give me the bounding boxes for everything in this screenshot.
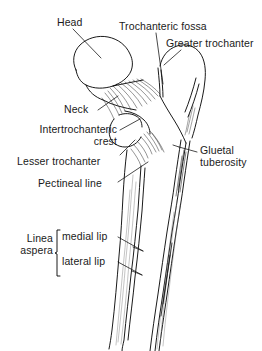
leader-tick-marks [132, 145, 179, 275]
femur-head-outline [74, 36, 133, 88]
label-neck: Neck [64, 104, 88, 116]
leader-lesser-trochanter [120, 140, 135, 155]
label-intertrochanteric-crest: Intertrochanteric crest [13, 124, 117, 148]
linea-aspera-medial-lip-inner [128, 168, 145, 340]
label-gluteal-tuberosity-line2: tuberosity [200, 156, 247, 168]
label-intertrochanteric-crest-line1: Intertrochanteric [39, 123, 117, 135]
head-neck-lower-contour [86, 85, 103, 100]
label-pectineal-line: Pectineal line [38, 178, 102, 190]
label-lateral-lip: lateral lip [62, 256, 105, 268]
leader-gluteal-tuberosity [179, 147, 197, 152]
leader-pectineal-line [118, 162, 148, 182]
label-gluteal-tuberosity-line1: Gluetal [200, 144, 234, 156]
label-linea-aspera: Linea aspera [4, 233, 53, 257]
leader-intertrochanteric [120, 119, 140, 130]
label-trochanteric-fossa: Trochanteric fossa [119, 21, 207, 33]
label-greater-trochanter: Greater trochanter [166, 38, 254, 50]
neck-inferior-outline [103, 100, 136, 110]
label-medial-lip: medial lip [62, 231, 107, 243]
gluteal-tuberosity-ridge [155, 143, 186, 351]
label-linea-aspera-line2: aspera [20, 244, 53, 256]
label-linea-aspera-line1: Linea [27, 232, 53, 244]
greater-trochanter-outline [160, 45, 205, 138]
femur-neck-outline [113, 80, 143, 86]
label-lesser-trochanter: Lesser trochanter [17, 156, 100, 168]
pectineal-line-hatching [131, 131, 164, 166]
greater-trochanter-inner-ridge [185, 78, 196, 112]
leader-head [73, 29, 101, 58]
femur-diagram: Head Trochanteric fossa Greater trochant… [0, 0, 262, 351]
leader-lateral-lip [118, 262, 142, 275]
label-intertrochanteric-crest-line2: crest [94, 135, 117, 147]
linea-aspera-brace [55, 230, 60, 276]
shaft-medial-border [109, 150, 127, 349]
label-head: Head [57, 17, 83, 29]
greater-trochanter-shading [185, 106, 195, 135]
label-gluteal-tuberosity: Gluetal tuberosity [200, 145, 258, 169]
greater-trochanter-medial-edge [160, 96, 186, 143]
intertrochanteric-crest-curve [125, 111, 150, 134]
leader-neck [98, 96, 118, 110]
neck-hatching [102, 79, 160, 119]
femur-illustration [0, 0, 262, 351]
